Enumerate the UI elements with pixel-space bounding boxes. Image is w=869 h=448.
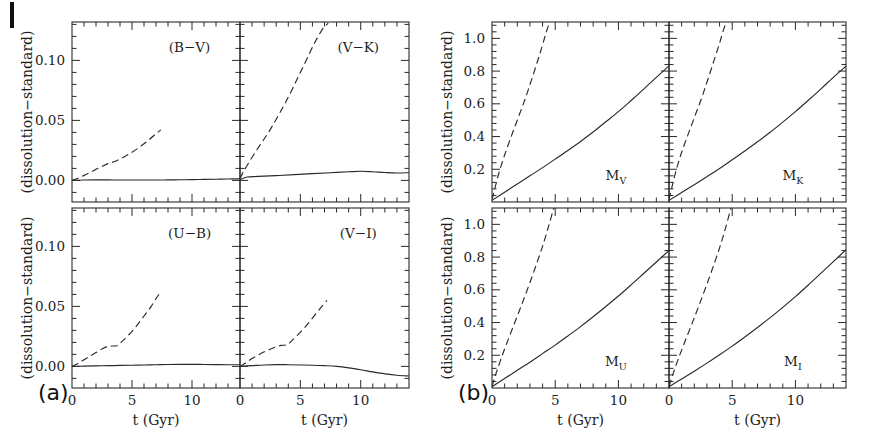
series-standard-solid (669, 250, 846, 387)
curve-layer (492, 20, 669, 200)
panel-label: (V−I) (340, 225, 377, 241)
curve-layer (72, 292, 240, 366)
x-tick-label: 0 (68, 392, 77, 408)
x-tick-label: 10 (610, 392, 627, 408)
panel-frame (669, 208, 846, 388)
panel-label: MV (606, 167, 627, 186)
y-axis-title: (dissolution−standard) (19, 30, 35, 193)
figure-canvas: 0.000.050.10(dissolution−standard)(B−V)(… (0, 0, 869, 448)
y-tick-label: 0.05 (35, 112, 65, 128)
y-tick-label: 0.2 (464, 161, 485, 177)
panel-b-top-right: MK (669, 20, 846, 202)
series-standard-solid (72, 179, 240, 181)
y-tick-label: 0.2 (464, 347, 485, 363)
panel-label: MU (605, 353, 627, 372)
x-tick-label: 10 (352, 392, 369, 408)
series-dissolving-cluster-dashed (669, 208, 731, 386)
y-tick-label: 0.6 (464, 95, 485, 111)
panel-label: (B−V) (169, 39, 211, 55)
x-tick-label: 10 (787, 392, 804, 408)
series-standard-solid (72, 364, 240, 366)
y-axis-title: (dissolution−standard) (439, 30, 455, 193)
x-tick-label: 0 (236, 392, 245, 408)
series-dissolving-cluster-dashed (492, 207, 554, 386)
series-standard-solid (492, 66, 669, 201)
panel-label: MI (784, 353, 802, 372)
x-axis-title: t (Gyr) (734, 412, 781, 428)
series-standard-solid (240, 365, 409, 376)
x-axis-title: t (Gyr) (557, 412, 604, 428)
panel-label: MK (782, 167, 804, 186)
panel-a-bottom-right: 0510t (Gyr)(V−I) (236, 208, 409, 428)
series-dissolving-cluster-dashed (72, 130, 161, 180)
panel-a-top-left: 0.000.050.10(dissolution−standard)(B−V) (19, 22, 240, 202)
y-tick-label: 0.8 (464, 249, 485, 265)
x-tick-label: 5 (551, 392, 560, 408)
y-tick-label: 0.00 (35, 358, 65, 374)
curve-layer (240, 23, 409, 179)
y-axis-title: (dissolution−standard) (19, 216, 35, 379)
series-dissolving-cluster-dashed (72, 292, 161, 366)
y-tick-label: 0.00 (35, 172, 65, 188)
y-tick-label: 0.4 (464, 128, 485, 144)
x-axis-title: t (Gyr) (301, 412, 348, 428)
curve-layer (492, 207, 669, 387)
series-standard-solid (669, 66, 846, 200)
series-dissolving-cluster-dashed (669, 20, 727, 199)
panel-frame (72, 22, 240, 202)
y-tick-label: 1.0 (464, 30, 485, 46)
panel-frame (240, 22, 409, 202)
y-tick-label: 0.05 (35, 298, 65, 314)
curve-layer (669, 20, 846, 200)
figure-root: 0.000.050.10(dissolution−standard)(B−V)(… (0, 0, 869, 448)
group-label-b: (b) (458, 380, 489, 405)
x-tick-label: 5 (728, 392, 737, 408)
x-tick-label: 0 (665, 392, 674, 408)
y-tick-label: 0.10 (35, 52, 65, 68)
series-dissolving-cluster-dashed (240, 300, 327, 366)
series-standard-solid (240, 171, 409, 179)
panel-label: (V−K) (337, 39, 379, 55)
y-tick-label: 0.10 (35, 238, 65, 254)
group-label-a: (a) (38, 380, 69, 405)
x-tick-label: 5 (296, 392, 305, 408)
series-standard-solid (492, 251, 669, 387)
curve-layer (72, 130, 240, 180)
panel-frame (492, 208, 669, 388)
panel-frame (240, 208, 409, 388)
panel-frame (669, 22, 846, 202)
y-tick-label: 0.8 (464, 63, 485, 79)
series-dissolving-cluster-dashed (240, 23, 328, 178)
curve-layer (240, 300, 409, 376)
y-axis-title: (dissolution−standard) (439, 216, 455, 379)
panel-a-top-right: (V−K) (240, 22, 409, 202)
x-tick-label: 10 (183, 392, 200, 408)
y-tick-label: 0.6 (464, 281, 485, 297)
y-tick-label: 1.0 (464, 216, 485, 232)
curve-layer (669, 208, 846, 387)
x-tick-label: 5 (128, 392, 137, 408)
x-axis-title: t (Gyr) (133, 412, 180, 428)
panel-b-bottom-right: 0510t (Gyr)MI (665, 208, 846, 428)
panel-frame (492, 22, 669, 202)
panel-b-top-left: 0.20.40.60.81.0(dissolution−standard)MV (439, 20, 669, 202)
series-dissolving-cluster-dashed (492, 20, 550, 199)
panel-label: (U−B) (168, 225, 211, 241)
y-tick-label: 0.4 (464, 314, 485, 330)
